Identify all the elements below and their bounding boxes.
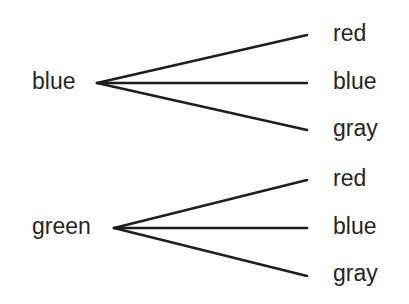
leaf-label: blue [333, 215, 376, 238]
branch-line [114, 228, 307, 276]
branch-line [97, 35, 307, 83]
leaf-label: red [333, 22, 366, 45]
leaf-label: red [333, 167, 366, 190]
branch-line [114, 180, 307, 228]
branch-line [97, 83, 307, 130]
root-label-2: green [32, 215, 91, 238]
leaf-label: gray [333, 117, 378, 140]
root-label-1: blue [32, 70, 75, 93]
leaf-label: blue [333, 70, 376, 93]
leaf-label: gray [333, 262, 378, 285]
